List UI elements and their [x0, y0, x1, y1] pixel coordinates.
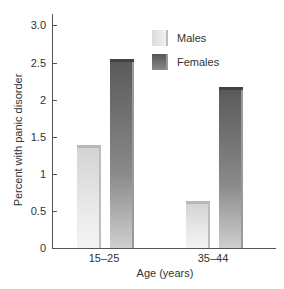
legend-item-males: Males — [152, 26, 219, 50]
legend-item-females: Females — [152, 50, 219, 74]
legend-label: Males — [177, 32, 206, 44]
y-tick-label: 3.0 — [31, 19, 46, 31]
y-tick — [52, 100, 57, 101]
y-tick — [52, 137, 57, 138]
y-tick — [52, 248, 57, 249]
bar-females-15-25 — [110, 62, 132, 248]
x-axis-label: Age (years) — [137, 267, 194, 279]
y-axis — [52, 14, 53, 249]
y-tick-label: 0 — [40, 242, 46, 254]
y-tick — [52, 25, 57, 26]
y-tick — [52, 63, 57, 64]
bar-males-15-25 — [77, 148, 99, 248]
y-tick-label: 1 — [40, 168, 46, 180]
y-tick — [52, 211, 57, 212]
legend-label: Females — [177, 56, 219, 68]
bar-males-35-44 — [186, 204, 208, 248]
legend: Males Females — [152, 26, 219, 74]
x-axis — [52, 248, 276, 249]
bar-females-35-44 — [219, 90, 241, 248]
females-swatch-icon — [152, 54, 168, 70]
y-axis-label: Percent with panic disorder — [12, 74, 24, 207]
y-tick-label: 1.5 — [31, 131, 46, 143]
x-tick-label: 35–44 — [198, 252, 229, 264]
x-tick-label: 15–25 — [89, 252, 120, 264]
y-tick — [52, 174, 57, 175]
y-tick-label: 0.5 — [31, 205, 46, 217]
y-tick-label: 2 — [40, 94, 46, 106]
bar-chart: Percent with panic disorder 0 0.5 1 1.5 … — [0, 0, 284, 289]
males-swatch-icon — [152, 30, 168, 46]
y-tick-label: 2.5 — [31, 57, 46, 69]
